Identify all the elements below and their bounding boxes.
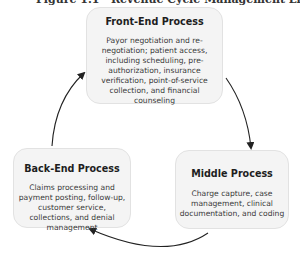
arrow-front-to-middle xyxy=(226,78,251,148)
middle-title: Middle Process xyxy=(176,168,288,179)
back-end-title: Back-End Process xyxy=(14,163,130,174)
back-end-description: Claims processing and payment posting, f… xyxy=(17,183,127,233)
middle-description: Charge capture, case management, clinica… xyxy=(179,189,285,219)
middle-process-box: Middle Process Charge capture, case mana… xyxy=(175,150,289,229)
front-end-description: Payor negotiation and re-negotiation; pa… xyxy=(93,36,216,106)
front-end-title: Front-End Process xyxy=(87,16,222,27)
back-end-process-box: Back-End Process Claims processing and p… xyxy=(13,148,131,228)
front-end-process-box: Front-End Process Payor negotiation and … xyxy=(86,7,223,104)
arrow-back-to-front xyxy=(52,73,84,146)
